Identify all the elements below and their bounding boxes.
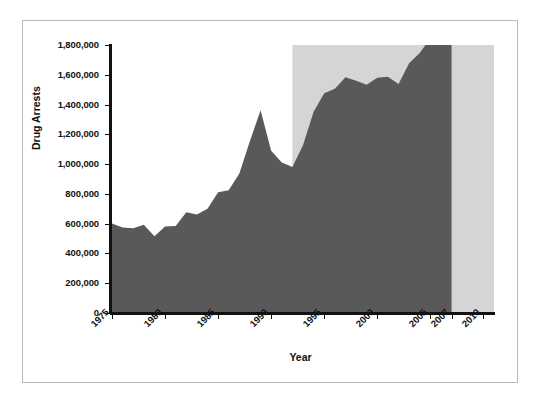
x-tick-mark xyxy=(452,315,453,319)
x-tick-label: 2007 xyxy=(429,307,451,329)
x-tick-mark xyxy=(218,315,219,319)
x-tick-label: 2000 xyxy=(354,307,376,329)
x-tick-label: 1990 xyxy=(248,307,270,329)
x-axis-title-text: Year xyxy=(289,351,311,363)
x-tick-label: 1975 xyxy=(89,307,111,329)
x-tick-label: 1985 xyxy=(195,307,217,329)
x-axis-title: Year xyxy=(0,352,541,363)
x-tick-label: 1995 xyxy=(301,307,323,329)
x-axis-tick-labels: 197519801985199019952000200520072010 xyxy=(0,0,541,404)
x-tick-mark xyxy=(324,315,325,319)
x-tick-label: 2005 xyxy=(407,307,429,329)
x-tick-mark xyxy=(483,315,484,319)
x-tick-mark xyxy=(112,315,113,319)
x-tick-label: 1980 xyxy=(142,307,164,329)
x-tick-mark xyxy=(377,315,378,319)
x-tick-mark xyxy=(271,315,272,319)
x-tick-label: 2010 xyxy=(460,307,482,329)
x-tick-mark xyxy=(165,315,166,319)
